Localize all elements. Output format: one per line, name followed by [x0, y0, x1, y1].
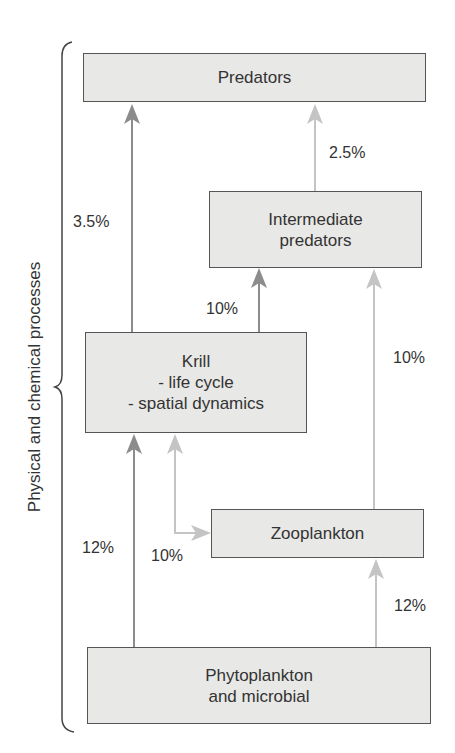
node-phytoplankton: Phytoplankton and microbial — [87, 647, 431, 724]
edge-label: 3.5% — [73, 213, 109, 231]
arrow-zooplankton-krill — [175, 448, 196, 533]
edge-label: 10% — [151, 547, 183, 565]
node-label: - spatial dynamics — [128, 393, 264, 414]
side-label: Physical and chemical processes — [0, 0, 60, 753]
node-label: Zooplankton — [271, 523, 365, 544]
node-zooplankton: Zooplankton — [211, 509, 424, 558]
node-predators: Predators — [83, 53, 426, 102]
edge-label: 10% — [206, 300, 238, 318]
node-label: Phytoplankton — [205, 665, 313, 686]
node-label: Krill — [182, 351, 210, 372]
edge-label: 12% — [394, 597, 426, 615]
node-label: and microbial — [208, 686, 309, 707]
edge-label: 2.5% — [329, 144, 365, 162]
node-label: Intermediate — [268, 209, 363, 230]
edge-label: 10% — [393, 349, 425, 367]
edge-label: 12% — [82, 539, 114, 557]
side-label-text: Physical and chemical processes — [25, 262, 45, 512]
node-label: Predators — [218, 67, 292, 88]
node-intermediate-predators: Intermediate predators — [209, 191, 422, 268]
node-label: - life cycle — [158, 372, 234, 393]
node-label: predators — [280, 230, 352, 251]
node-krill: Krill - life cycle - spatial dynamics — [85, 332, 307, 433]
